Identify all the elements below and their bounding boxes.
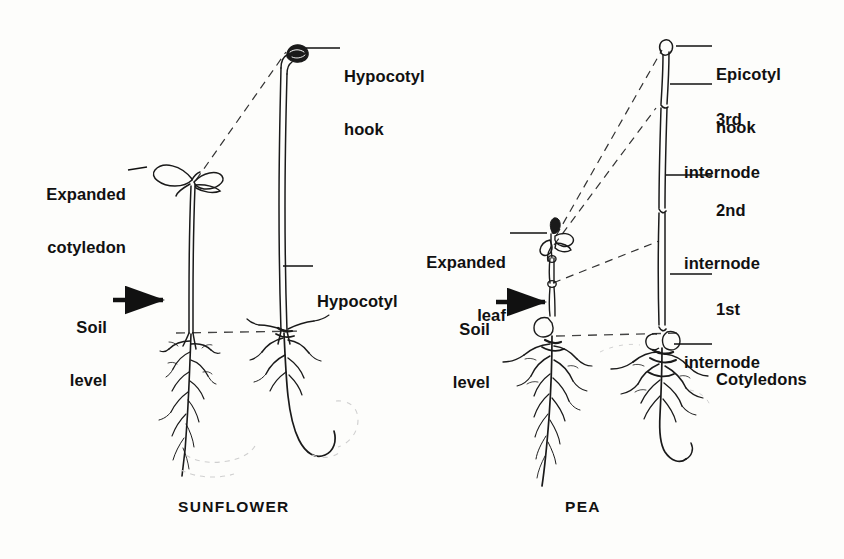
sunflower-soil-ghost-right — [312, 401, 358, 457]
label-2nd-internode-line1: 2nd — [716, 202, 760, 220]
label-3rd-internode-line1: 3rd — [716, 111, 760, 129]
sunflower-soil-ghost-left — [181, 443, 256, 477]
label-expanded-cotyledon: Expanded cotyledon — [0, 150, 126, 293]
label-expanded-leaf-line1: Expanded — [390, 254, 506, 272]
caption-sunflower: SUNFLOWER — [178, 498, 290, 516]
label-hypocotyl-line1: Hypocotyl — [317, 293, 398, 311]
label-expanded-cotyledon-line1: Expanded — [0, 186, 126, 204]
label-soil-level-sunflower: Soil level — [0, 283, 107, 426]
sunflower-young-roots — [159, 334, 220, 476]
growth-connector-pea-node — [554, 108, 656, 245]
label-hypocotyl-hook: Hypocotyl hook — [344, 32, 425, 175]
germination-diagram: Hypocotyl hook Expanded cotyledon Hypoco… — [0, 0, 844, 559]
label-hypocotyl: Hypocotyl — [317, 257, 398, 346]
pea-cotyledons — [646, 331, 680, 350]
label-expanded-cotyledon-line2: cotyledon — [0, 239, 126, 257]
label-soil-level-sunflower-line1: Soil — [0, 319, 107, 337]
label-1st-internode-line1: 1st — [716, 301, 760, 319]
label-soil-level-pea-line1: Soil — [390, 321, 490, 339]
sunflower-etiolated-seedling — [278, 45, 308, 344]
pea-panel — [503, 40, 710, 486]
sunflower-young-seedling — [153, 165, 222, 349]
label-hypocotyl-hook-line2: hook — [344, 121, 425, 139]
pea-young-roots — [503, 336, 592, 486]
label-soil-level-pea: Soil level — [390, 285, 490, 428]
label-cotyledons: Cotyledons — [716, 335, 807, 424]
leader-expanded-cotyledon — [128, 167, 147, 170]
label-soil-level-sunflower-line2: level — [0, 372, 107, 390]
growth-connector-pea-apex — [556, 50, 662, 236]
label-hypocotyl-hook-line1: Hypocotyl — [344, 68, 425, 86]
label-cotyledons-line1: Cotyledons — [716, 371, 807, 389]
label-soil-level-pea-line2: level — [390, 374, 490, 392]
caption-pea: PEA — [565, 498, 601, 516]
growth-connector-sunflower — [196, 52, 286, 180]
